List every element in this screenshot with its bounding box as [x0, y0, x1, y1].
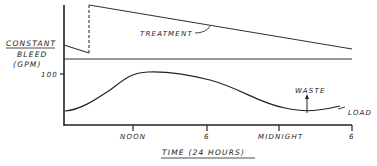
treatment-label: TREATMENT [140, 30, 193, 38]
bleed-diagram: CONSTANT BLEED (GPM) 100 TREATMENT WASTE… [0, 0, 377, 166]
y-label-line1: CONSTANT [6, 39, 57, 48]
x-axis-title: TIME (24 HOURS) [162, 148, 245, 157]
y-label-line2: BLEED [17, 50, 48, 59]
x-tick-label-midnight: MIDNIGHT [258, 133, 303, 141]
treatment-line-initial [64, 45, 89, 53]
waste-label: WASTE [295, 87, 326, 95]
x-tick-label-6am: 6 [349, 133, 355, 141]
y-label-line3: (GPM) [13, 60, 42, 69]
treatment-line [89, 5, 352, 49]
x-tick-label-noon: NOON [120, 133, 146, 141]
x-tick-label-6pm: 6 [204, 133, 210, 141]
load-label: LOAD [348, 109, 372, 117]
y-tick-label-100: 100 [41, 71, 58, 79]
load-leader [338, 107, 345, 109]
treatment-leader [195, 26, 210, 33]
